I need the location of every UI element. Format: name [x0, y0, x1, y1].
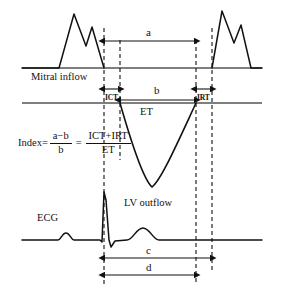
interval-a-label: a — [146, 27, 151, 38]
formula-equals-sign: = — [76, 138, 82, 149]
ict-label: ICT — [105, 94, 118, 102]
irt-label: IRT — [197, 94, 209, 102]
interval-c-label: c — [146, 245, 151, 256]
reference-line-group — [104, 28, 212, 284]
formula-fraction-one-denominator: b — [55, 144, 66, 156]
mitral-inflow-waveform — [22, 11, 262, 68]
mitral-inflow-trace-cycle-1 — [22, 14, 104, 68]
lv-outflow-label: LV outflow — [124, 198, 172, 209]
formula-fraction-two-numerator: ICT+IRT — [86, 131, 131, 144]
interval-b-label: b — [154, 85, 160, 96]
mitral-inflow-label: Mitral inflow — [31, 72, 87, 83]
formula-fraction-one: a−b b — [50, 131, 72, 155]
mitral-inflow-trace-cycle-2 — [212, 11, 262, 68]
formula-fraction-two-denominator: ET — [99, 144, 118, 156]
interval-d-label: d — [146, 262, 152, 273]
formula-lead: Index= — [18, 138, 48, 149]
formula-fraction-one-numerator: a−b — [50, 131, 72, 144]
ecg-label: ECG — [37, 213, 58, 224]
et-label: ET — [140, 107, 153, 118]
formula-fraction-two: ICT+IRT ET — [86, 131, 131, 155]
index-formula: Index= a−b b = ICT+IRT ET — [18, 131, 133, 155]
cardiac-timing-diagram: Mitral inflow ICT IRT a b ET LV outflow … — [0, 0, 287, 290]
